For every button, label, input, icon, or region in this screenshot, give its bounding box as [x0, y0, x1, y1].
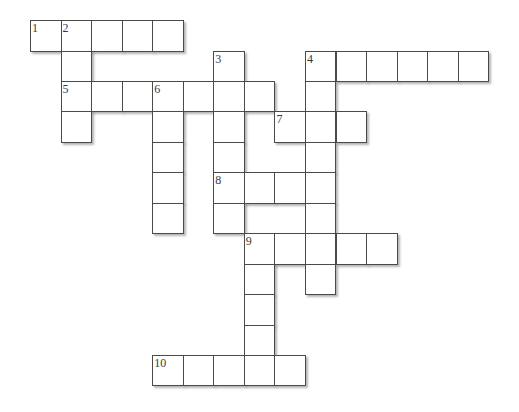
grid-cell[interactable]: [213, 81, 245, 113]
grid-cell[interactable]: 6: [152, 81, 184, 113]
grid-cell[interactable]: [244, 355, 276, 387]
grid-cell[interactable]: [458, 51, 490, 83]
grid-cell[interactable]: [61, 111, 93, 143]
grid-cell[interactable]: [244, 325, 276, 357]
clue-number: 1: [32, 21, 38, 35]
grid-cell[interactable]: [305, 264, 337, 296]
grid-cell[interactable]: [213, 111, 245, 143]
clue-number: 6: [154, 82, 160, 96]
grid-cell[interactable]: [152, 20, 184, 52]
clue-number: 8: [215, 173, 221, 187]
grid-cell[interactable]: [152, 172, 184, 204]
grid-cell[interactable]: [152, 203, 184, 235]
grid-cell[interactable]: 8: [213, 172, 245, 204]
grid-cell[interactable]: [274, 355, 306, 387]
grid-cell[interactable]: [91, 81, 123, 113]
grid-cell[interactable]: [122, 20, 154, 52]
clue-number: 4: [307, 52, 313, 66]
grid-cell[interactable]: [152, 111, 184, 143]
grid-cell[interactable]: 2: [61, 20, 93, 52]
grid-cell[interactable]: [305, 81, 337, 113]
grid-cell[interactable]: [183, 81, 215, 113]
grid-cell[interactable]: [244, 264, 276, 296]
grid-cell[interactable]: 4: [305, 51, 337, 83]
grid-cell[interactable]: [213, 142, 245, 174]
grid-cell[interactable]: [427, 51, 459, 83]
grid-cell[interactable]: [122, 81, 154, 113]
grid-cell[interactable]: [213, 203, 245, 235]
grid-cell[interactable]: [213, 355, 245, 387]
crossword-grid: 12345678910: [0, 0, 519, 412]
grid-cell[interactable]: [305, 172, 337, 204]
grid-cell[interactable]: [91, 20, 123, 52]
grid-cell[interactable]: [305, 233, 337, 265]
grid-cell[interactable]: [305, 203, 337, 235]
grid-cell[interactable]: [183, 355, 215, 387]
grid-cell[interactable]: [244, 81, 276, 113]
grid-cell[interactable]: 5: [61, 81, 93, 113]
grid-cell[interactable]: [336, 111, 368, 143]
grid-cell[interactable]: 9: [244, 233, 276, 265]
clue-number: 10: [154, 356, 166, 370]
grid-cell[interactable]: [244, 294, 276, 326]
grid-cell[interactable]: [305, 111, 337, 143]
grid-cell[interactable]: [336, 233, 368, 265]
clue-number: 3: [215, 52, 221, 66]
grid-cell[interactable]: [244, 172, 276, 204]
grid-cell[interactable]: 3: [213, 51, 245, 83]
grid-cell[interactable]: [274, 233, 306, 265]
clue-number: 5: [63, 82, 69, 96]
grid-cell[interactable]: [397, 51, 429, 83]
grid-cell[interactable]: 7: [274, 111, 306, 143]
grid-cell[interactable]: [61, 51, 93, 83]
grid-cell[interactable]: [336, 51, 368, 83]
clue-number: 7: [276, 112, 282, 126]
grid-cell[interactable]: 1: [30, 20, 62, 52]
clue-number: 2: [63, 21, 69, 35]
grid-cell[interactable]: [366, 51, 398, 83]
grid-cell[interactable]: 10: [152, 355, 184, 387]
grid-cell[interactable]: [152, 142, 184, 174]
grid-cell[interactable]: [305, 142, 337, 174]
grid-cell[interactable]: [274, 172, 306, 204]
grid-cell[interactable]: [366, 233, 398, 265]
clue-number: 9: [246, 234, 252, 248]
